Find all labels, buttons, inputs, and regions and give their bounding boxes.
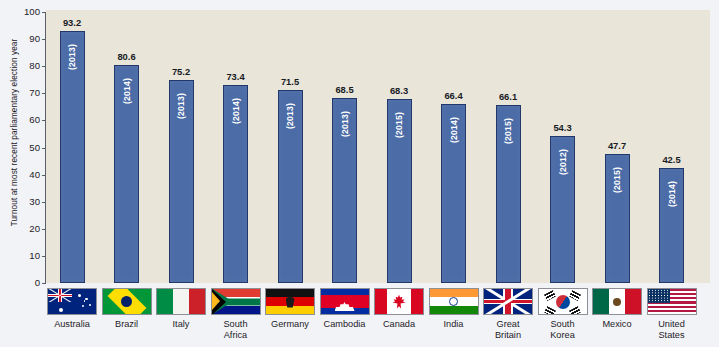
bar-australia[interactable]: 93.2(2013): [60, 31, 85, 283]
y-tick-mark: [42, 256, 46, 257]
flag-canada-icon: [374, 288, 424, 315]
bar-united-states[interactable]: 42.5(2014): [659, 168, 684, 283]
ashoka-chakra: [449, 297, 458, 306]
union-jack: [48, 289, 72, 302]
country-axis-item-great-britain[interactable]: Great Britain: [481, 288, 535, 340]
taegeuk: [556, 295, 570, 309]
country-label: Cambodia: [324, 319, 366, 330]
plot-area: 93.2(2013)80.6(2014)75.2(2013)73.4(2014)…: [46, 10, 710, 283]
country-axis-item-brazil[interactable]: Brazil: [100, 288, 154, 330]
uj-red-vertical: [505, 289, 511, 314]
bar-canada[interactable]: 68.3(2015): [387, 99, 412, 283]
country-axis-item-united-states[interactable]: United States: [645, 288, 699, 340]
green-band: [157, 289, 173, 314]
country-label: Great Britain: [495, 319, 521, 340]
bar-south-korea[interactable]: 54.3(2012): [550, 136, 575, 283]
bar-value-label: 73.4: [226, 71, 244, 82]
red-band-left: [375, 289, 387, 314]
union-jack: [484, 289, 532, 314]
y-axis-label: Turnout at most recent parliamentary ele…: [10, 0, 19, 268]
bar-cambodia[interactable]: 68.5(2013): [332, 98, 357, 283]
bar-rect[interactable]: (2012): [550, 136, 575, 283]
y-tick-20: 20: [0, 229, 46, 230]
y-tick-mark: [42, 148, 46, 149]
country-label: India: [444, 319, 464, 330]
country-axis-item-india[interactable]: India: [427, 288, 481, 330]
red-band: [189, 289, 205, 314]
country-axis-item-germany[interactable]: Germany: [263, 288, 317, 330]
y-tick-100: 100: [0, 12, 46, 13]
flag-cambodia-icon: [320, 288, 370, 315]
country-axis-item-south-korea[interactable]: South Korea: [536, 288, 590, 340]
bar-rect[interactable]: (2013): [332, 98, 357, 283]
green-band: [430, 306, 478, 314]
flag-india-icon: [429, 288, 479, 315]
white-band: [173, 289, 189, 314]
bar-rect[interactable]: (2015): [605, 154, 630, 283]
bar-mexico[interactable]: 47.7(2015): [605, 154, 630, 283]
country-label: South Africa: [223, 319, 247, 340]
country-axis-item-canada[interactable]: Canada: [372, 288, 426, 330]
bar-rect[interactable]: (2014): [114, 65, 139, 283]
bar-year-label: (2013): [285, 103, 295, 129]
maple-leaf: [393, 295, 406, 309]
country-label: Italy: [173, 319, 190, 330]
y-tick-mark: [42, 120, 46, 121]
bar-italy[interactable]: 75.2(2013): [169, 80, 194, 283]
coat-of-arms: [613, 298, 621, 306]
flag-mexico-icon: [592, 288, 642, 315]
bar-chart: 93.2(2013)80.6(2014)75.2(2013)73.4(2014)…: [0, 0, 719, 347]
y-tick-90: 90: [0, 39, 46, 40]
uj-red-horizontal: [484, 300, 532, 303]
bar-value-label: 66.1: [499, 91, 517, 102]
flag-united-states-icon: [647, 288, 697, 315]
red-band-right: [411, 289, 423, 314]
y-tick-label: 60: [29, 114, 40, 125]
bar-year-label: (2013): [176, 93, 186, 119]
y-tick-mark: [42, 283, 46, 284]
country-axis-item-australia[interactable]: Australia: [45, 288, 99, 330]
country-axis-item-cambodia[interactable]: Cambodia: [318, 288, 372, 330]
bar-year-label: (2014): [449, 117, 459, 143]
uj-red-vertical: [59, 289, 62, 302]
bar-brazil[interactable]: 80.6(2014): [114, 65, 139, 283]
y-tick-label: 10: [29, 250, 40, 261]
y-tick-label: 90: [29, 33, 40, 44]
y-tick-mark: [42, 175, 46, 176]
y-tick-10: 10: [0, 256, 46, 257]
y-tick-30: 30: [0, 202, 46, 203]
bar-value-label: 66.4: [444, 90, 462, 101]
bar-value-label: 68.3: [390, 85, 408, 96]
bars-layer: 93.2(2013)80.6(2014)75.2(2013)73.4(2014)…: [46, 13, 710, 283]
country-label: Canada: [383, 319, 415, 330]
y-tick-label: 30: [29, 196, 40, 207]
bar-value-label: 68.5: [335, 84, 353, 95]
bar-value-label: 54.3: [553, 122, 571, 133]
bar-year-label: (2015): [394, 112, 404, 138]
y-tick-40: 40: [0, 175, 46, 176]
bar-year-label: (2015): [503, 118, 513, 144]
bar-rect[interactable]: (2014): [659, 168, 684, 283]
country-label: United States: [658, 319, 685, 340]
bar-germany[interactable]: 71.5(2013): [278, 90, 303, 283]
bar-rect[interactable]: (2015): [496, 105, 521, 283]
star: [78, 294, 81, 297]
country-axis-item-mexico[interactable]: Mexico: [590, 288, 644, 330]
bar-value-label: 71.5: [281, 76, 299, 87]
y-tick-50: 50: [0, 148, 46, 149]
y-tick-label: 70: [29, 87, 40, 98]
bar-rect[interactable]: (2014): [441, 104, 466, 283]
bar-rect[interactable]: (2015): [387, 99, 412, 283]
flag-australia-icon: [47, 288, 97, 315]
bar-south-africa[interactable]: 73.4(2014): [223, 85, 248, 283]
bar-rect[interactable]: (2013): [169, 80, 194, 283]
bar-great-britain[interactable]: 66.1(2015): [496, 105, 521, 283]
gold-triangle: [212, 292, 220, 310]
bar-rect[interactable]: (2014): [223, 85, 248, 283]
country-axis-item-italy[interactable]: Italy: [154, 288, 208, 330]
bar-rect[interactable]: (2013): [278, 90, 303, 283]
bar-year-label: (2013): [67, 44, 77, 70]
bar-rect[interactable]: (2013): [60, 31, 85, 283]
bar-india[interactable]: 66.4(2014): [441, 104, 466, 283]
country-axis-item-south-africa[interactable]: South Africa: [209, 288, 263, 340]
